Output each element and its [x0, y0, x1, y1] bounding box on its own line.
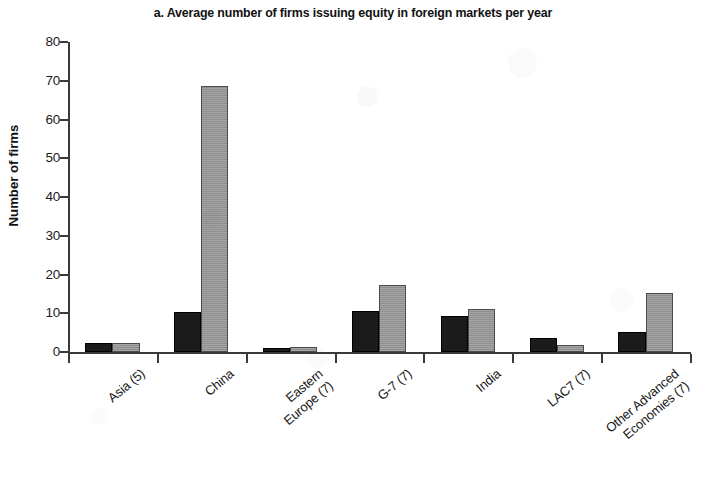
x-axis-line — [68, 352, 691, 354]
x-tick-mark — [157, 354, 159, 363]
x-tick-mark — [423, 354, 425, 363]
y-tick-label: 20 — [8, 267, 60, 282]
y-tick-mark — [60, 351, 68, 353]
bar — [85, 343, 112, 352]
bar — [112, 343, 139, 352]
y-tick-mark — [60, 157, 68, 159]
bar — [646, 293, 673, 352]
y-tick-mark — [60, 80, 68, 82]
bar — [352, 311, 379, 352]
bar — [263, 348, 290, 352]
bar — [290, 347, 317, 352]
y-tick-label: 40 — [8, 189, 60, 204]
y-tick-label: 0 — [8, 344, 60, 359]
plot-area — [68, 42, 690, 352]
bar — [441, 316, 468, 352]
bar — [379, 285, 406, 352]
y-tick-mark — [60, 235, 68, 237]
y-tick-label: 30 — [8, 228, 60, 243]
bar — [174, 312, 201, 352]
y-tick-mark — [60, 196, 68, 198]
y-tick-mark — [60, 312, 68, 314]
bar — [468, 309, 495, 352]
x-tick-mark — [690, 354, 692, 363]
chart-title: a. Average number of firms issuing equit… — [0, 6, 706, 20]
y-tick-mark — [60, 119, 68, 121]
x-category-label: Eastern Europe (7) — [171, 366, 337, 484]
y-tick-label: 10 — [8, 305, 60, 320]
bar — [618, 332, 645, 352]
bar — [201, 86, 228, 352]
x-category-label: Other Advanced Economies (7) — [526, 366, 692, 484]
y-tick-label: 60 — [8, 112, 60, 127]
y-tick-label: 80 — [8, 34, 60, 49]
x-tick-mark — [335, 354, 337, 363]
x-tick-mark — [512, 354, 514, 363]
bar — [557, 345, 584, 352]
y-tick-label: 70 — [8, 73, 60, 88]
x-tick-mark — [68, 354, 70, 363]
x-tick-mark — [246, 354, 248, 363]
y-tick-label: 50 — [8, 150, 60, 165]
x-tick-mark — [601, 354, 603, 363]
y-tick-mark — [60, 274, 68, 276]
y-tick-mark — [60, 41, 68, 43]
bar — [530, 338, 557, 352]
